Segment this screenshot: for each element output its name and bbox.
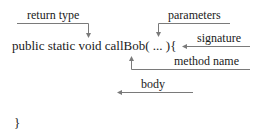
signature-label: signature bbox=[197, 32, 241, 44]
return-type-leader-line bbox=[17, 24, 89, 37]
parameters-label: parameters bbox=[168, 9, 221, 21]
body-label: body bbox=[141, 78, 165, 90]
method-anatomy-diagram: return type parameters signature public … bbox=[0, 0, 263, 132]
method-declaration-code: public static void callBob( ... ){ bbox=[12, 39, 176, 52]
signature-arrowhead-icon bbox=[182, 44, 187, 49]
body-arrowhead-icon bbox=[117, 90, 122, 95]
method-name-label: method name bbox=[174, 55, 239, 67]
return-type-label: return type bbox=[27, 9, 79, 21]
method-name-arrowhead-icon bbox=[129, 56, 134, 61]
parameters-arrowhead-icon bbox=[156, 32, 161, 37]
closing-brace: } bbox=[14, 116, 20, 129]
